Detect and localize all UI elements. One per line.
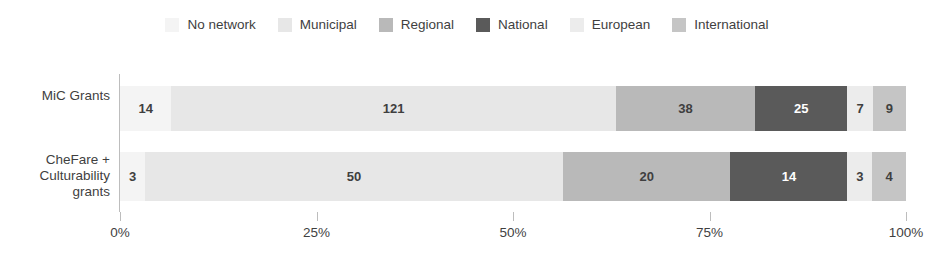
bar-segment-value: 9: [886, 102, 893, 115]
x-axis-tick-label: 75%: [696, 226, 723, 240]
chart-legend: No networkMunicipalRegionalNationalEurop…: [0, 18, 934, 32]
legend-label: Regional: [401, 18, 454, 32]
legend-label: National: [498, 18, 548, 32]
legend-swatch-icon: [379, 18, 393, 32]
bar-segment-value: 14: [782, 170, 796, 183]
y-axis-category-label: MiC Grants: [0, 88, 110, 104]
legend-item[interactable]: No network: [165, 18, 255, 32]
x-axis-tick-mark: [906, 212, 907, 221]
bar-segment-value: 50: [347, 170, 361, 183]
y-axis-category-label-line: MiC Grants: [0, 88, 110, 104]
bar-segment[interactable]: 121: [171, 86, 615, 131]
legend-item[interactable]: Regional: [379, 18, 454, 32]
bar-segment-value: 3: [856, 170, 863, 183]
legend-swatch-icon: [476, 18, 490, 32]
legend-label: International: [694, 18, 768, 32]
legend-item[interactable]: European: [570, 18, 651, 32]
bar-row: 14121382579: [120, 86, 906, 131]
legend-swatch-icon: [278, 18, 292, 32]
bar-segment-value: 38: [678, 102, 692, 115]
y-axis-category-label-line: Culturability: [0, 168, 110, 184]
bar-segment[interactable]: 7: [847, 86, 873, 131]
bar-row: 350201434: [120, 152, 906, 201]
bar-segment-value: 3: [129, 170, 136, 183]
legend-swatch-icon: [165, 18, 179, 32]
legend-item[interactable]: Municipal: [278, 18, 357, 32]
x-axis-tick-label: 25%: [303, 226, 330, 240]
bar-segment-value: 7: [856, 102, 863, 115]
x-axis-tick-mark: [120, 212, 121, 221]
bar-segment[interactable]: 20: [563, 152, 730, 201]
legend-swatch-icon: [570, 18, 584, 32]
bar-segment[interactable]: 9: [873, 86, 906, 131]
bar-segment-value: 14: [138, 102, 152, 115]
y-axis-category-label-line: CheFare +: [0, 152, 110, 168]
bar-segment[interactable]: 50: [145, 152, 563, 201]
stacked-bar-chart: No networkMunicipalRegionalNationalEurop…: [0, 0, 934, 269]
bar-segment[interactable]: 14: [120, 86, 171, 131]
x-axis-tick-label: 0%: [110, 226, 130, 240]
x-axis-tick-label: 100%: [889, 226, 924, 240]
bar-segment[interactable]: 3: [120, 152, 145, 201]
bar-segment-value: 20: [640, 170, 654, 183]
y-axis-category-label: CheFare +Culturabilitygrants: [0, 152, 110, 200]
bar-segment[interactable]: 3: [847, 152, 872, 201]
legend-swatch-icon: [672, 18, 686, 32]
bar-segment[interactable]: 25: [755, 86, 847, 131]
legend-item[interactable]: International: [672, 18, 768, 32]
legend-label: No network: [187, 18, 255, 32]
plot-area: 14121382579 350201434: [120, 74, 906, 212]
bar-segment-value: 121: [383, 102, 405, 115]
bar-segment-value: 4: [886, 170, 893, 183]
bar-segment[interactable]: 14: [730, 152, 847, 201]
x-axis-tick-mark: [513, 212, 514, 221]
legend-item[interactable]: National: [476, 18, 548, 32]
x-axis-tick-mark: [710, 212, 711, 221]
x-axis-tick-mark: [317, 212, 318, 221]
x-axis-tick-label: 50%: [499, 226, 526, 240]
legend-label: Municipal: [300, 18, 357, 32]
bar-segment[interactable]: 4: [872, 152, 905, 201]
y-axis-category-label-line: grants: [0, 184, 110, 200]
bar-segment-value: 25: [794, 102, 808, 115]
bar-segment[interactable]: 38: [616, 86, 756, 131]
legend-label: European: [592, 18, 651, 32]
